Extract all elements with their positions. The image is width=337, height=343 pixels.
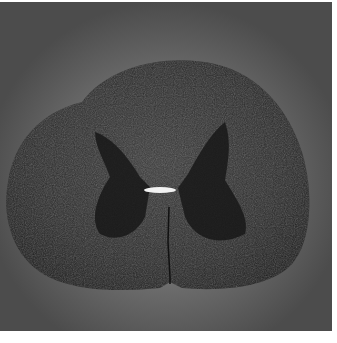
central-canal xyxy=(144,187,176,193)
spinal-cord-section xyxy=(0,2,332,331)
microscopy-photo xyxy=(0,2,332,331)
